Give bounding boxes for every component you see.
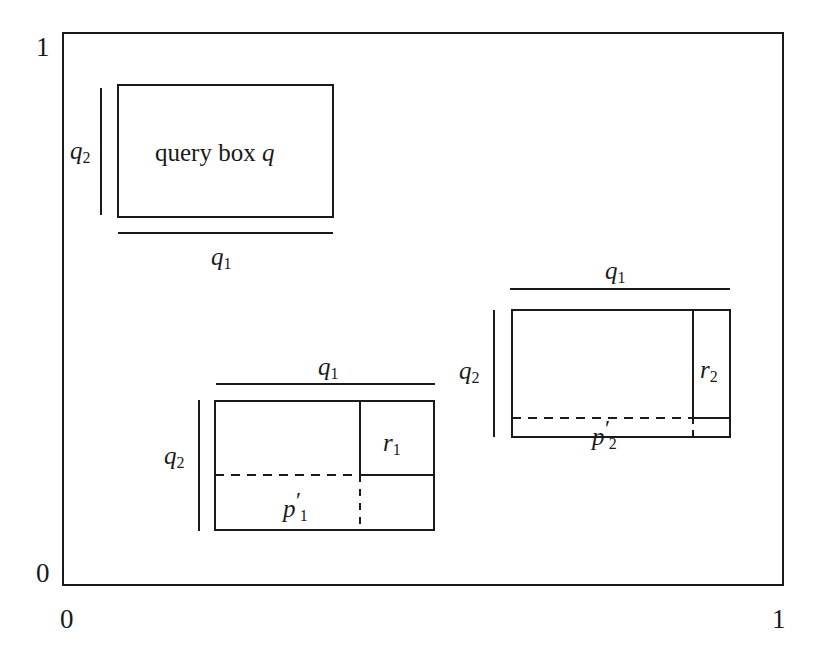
r1-height-sub: 2 xyxy=(177,454,185,471)
r2-region-sub: 2 xyxy=(710,368,718,385)
r2-region-label: r2 xyxy=(700,357,718,385)
r1-point-label: p′1 xyxy=(283,489,308,524)
query-box-width-sub: 1 xyxy=(224,255,232,272)
r1-height-label: q2 xyxy=(164,443,185,471)
r1-width-var: q xyxy=(318,353,331,380)
r1-point-sub: 1 xyxy=(300,507,308,524)
r1-point-var: p xyxy=(283,495,296,522)
r2-height-var: q xyxy=(459,357,472,384)
query-box-height-var: q xyxy=(70,137,83,164)
figure-vector-layer xyxy=(0,0,823,652)
r1-region-label: r1 xyxy=(383,430,401,458)
axis-label-x-right: 1 xyxy=(772,606,786,633)
query-box-caption-text: query box xyxy=(155,139,262,166)
axis-label-x-left: 0 xyxy=(60,606,74,633)
axis-label-y-top: 1 xyxy=(36,34,50,61)
r1-height-var: q xyxy=(164,442,177,469)
r2-width-sub: 1 xyxy=(618,269,626,286)
r2-width-label: q1 xyxy=(605,258,626,286)
r1-box-rect xyxy=(215,401,434,530)
query-box-caption: query box q xyxy=(155,140,274,165)
r2-point-label: p′2 xyxy=(592,417,617,452)
r2-point-sub: 2 xyxy=(609,435,617,452)
axis-label-y-bottom: 0 xyxy=(36,560,50,587)
r2-width-var: q xyxy=(605,257,618,284)
query-box-width-var: q xyxy=(211,243,224,270)
r1-region-sub: 1 xyxy=(393,441,401,458)
query-box-width-label: q1 xyxy=(211,244,232,272)
r1-width-sub: 1 xyxy=(331,365,339,382)
r2-region-var: r xyxy=(700,356,710,383)
query-box-height-sub: 2 xyxy=(83,149,91,166)
query-box-height-label: q2 xyxy=(70,138,91,166)
r2-height-sub: 2 xyxy=(472,369,480,386)
r2-height-label: q2 xyxy=(459,358,480,386)
figure-canvas: 1 0 0 1 q2 query box q q1 q1 q2 r1 p′1 q… xyxy=(0,0,823,652)
query-box-caption-var: q xyxy=(262,139,275,166)
r1-region-var: r xyxy=(383,429,393,456)
r2-point-var: p xyxy=(592,423,605,450)
r1-width-label: q1 xyxy=(318,354,339,382)
